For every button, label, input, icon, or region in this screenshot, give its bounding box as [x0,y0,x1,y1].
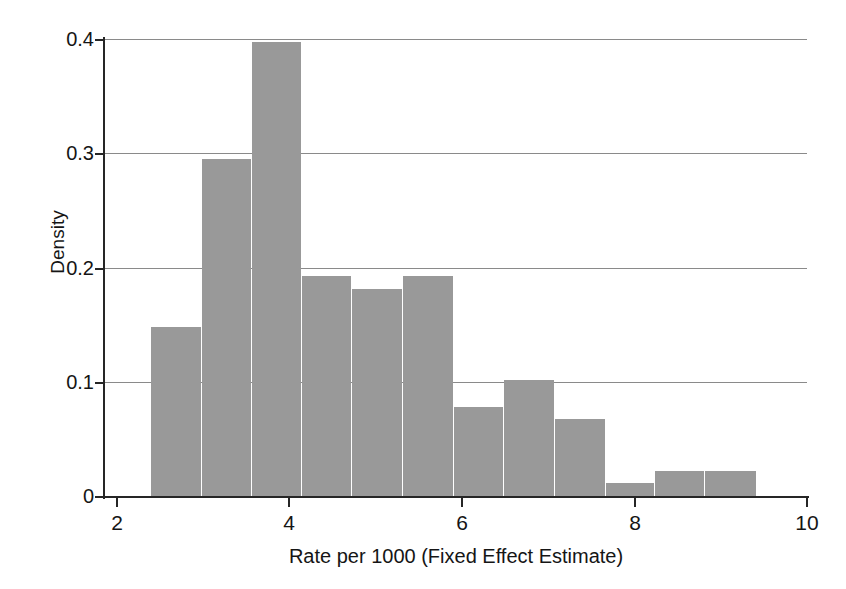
y-tick-mark-0.4 [95,39,104,41]
y-tick-mark-0.2 [95,268,104,270]
histogram-bar [151,327,201,497]
plot-area: 0.4 0.3 0.2 0.1 0 2 4 6 8 10 Density Rat… [0,0,846,589]
y-tick-label-0.2: 0.2 [66,258,94,278]
x-tick-label-2: 2 [111,512,123,534]
y-axis-label: Density [48,182,68,302]
histogram-bar [252,42,301,497]
histogram-bar [403,276,453,497]
x-tick-mark-2 [116,497,118,507]
x-axis-label: Rate per 1000 (Fixed Effect Estimate) [103,545,809,567]
histogram-bar [705,471,756,497]
histogram-bar [352,289,402,497]
x-tick-label-6: 6 [456,512,468,534]
y-tick-label-0.3: 0.3 [66,143,94,163]
x-tick-mark-4 [288,497,290,507]
gridline-0.3 [103,153,807,154]
histogram-bar [202,159,251,497]
x-tick-mark-8 [634,497,636,507]
y-tick-label-0.4: 0.4 [66,29,94,49]
histogram-bar [606,483,654,497]
y-tick-mark-0.3 [95,153,104,155]
x-tick-label-4: 4 [283,512,295,534]
x-tick-label-8: 8 [629,512,641,534]
histogram-bar [555,419,605,497]
x-axis-line [103,496,809,498]
x-tick-mark-10 [806,497,808,507]
histogram-bar [302,276,351,497]
y-tick-label-0.1: 0.1 [66,372,94,392]
histogram-bar [454,407,503,497]
x-tick-mark-6 [461,497,463,507]
histogram-bar [504,380,554,497]
histogram-figure: 0.4 0.3 0.2 0.1 0 2 4 6 8 10 Density Rat… [0,0,846,589]
x-tick-label-10: 10 [795,512,818,534]
histogram-bar [655,471,704,497]
y-tick-mark-0.1 [95,382,104,384]
y-tick-mark-0 [95,496,104,498]
y-tick-label-0: 0 [83,486,94,506]
gridline-0.4 [103,39,807,40]
